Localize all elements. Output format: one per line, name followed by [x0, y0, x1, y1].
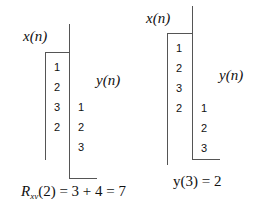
left-divider-line — [69, 24, 70, 179]
eq-rest: (2) = 3 + 4 = 7 — [38, 183, 126, 199]
left-x-top-line — [45, 52, 70, 53]
right-divider-line — [192, 6, 193, 159]
left-x-value: 2 — [51, 121, 63, 133]
left-y-value: 3 — [75, 141, 87, 153]
left-x-left-line — [45, 52, 46, 160]
left-y-label-text: y(n) — [96, 72, 120, 88]
right-y-value: 1 — [198, 102, 210, 114]
right-x-value: 2 — [173, 102, 185, 114]
left-x-value: 1 — [51, 61, 63, 73]
right-x-value: 2 — [173, 62, 185, 74]
eq-subscript: xy — [30, 191, 38, 199]
left-x-value: 2 — [51, 81, 63, 93]
left-y-value: 2 — [75, 121, 87, 133]
right-x-label-text: x(n) — [146, 10, 170, 26]
left-y-bottom-line — [69, 178, 97, 179]
left-x-label: x(n) — [23, 28, 47, 45]
right-x-value: 1 — [173, 42, 185, 54]
right-y-label: y(n) — [219, 67, 243, 84]
right-x-left-line — [167, 33, 168, 165]
right-x-value: 3 — [173, 82, 185, 94]
right-y-bottom-line — [192, 159, 220, 160]
right-x-label: x(n) — [146, 10, 170, 27]
right-y-value: 2 — [198, 122, 210, 134]
left-y-label: y(n) — [96, 72, 120, 89]
right-equation: y(3) = 2 — [173, 173, 221, 190]
right-y-label-text: y(n) — [219, 67, 243, 83]
right-y-value: 3 — [198, 142, 210, 154]
left-y-value: 1 — [75, 101, 87, 113]
left-equation: Rxy(2) = 3 + 4 = 7 — [21, 183, 126, 199]
left-x-label-text: x(n) — [23, 28, 47, 44]
left-x-value: 3 — [51, 101, 63, 113]
right-x-top-line — [167, 33, 193, 34]
eq-prefix: R — [21, 183, 30, 199]
